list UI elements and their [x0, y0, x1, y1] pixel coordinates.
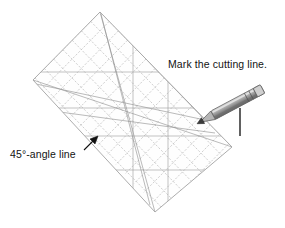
- figure-canvas: Mark the cutting line. 45°-angle line: [0, 0, 285, 228]
- pencil-highlight: [212, 86, 260, 113]
- label-mark-the-cutting-line: Mark the cutting line.: [168, 58, 267, 70]
- pencil: [195, 85, 265, 128]
- label-45-degree-angle-line: 45°-angle line: [10, 148, 76, 160]
- illustration-svg: [0, 0, 285, 228]
